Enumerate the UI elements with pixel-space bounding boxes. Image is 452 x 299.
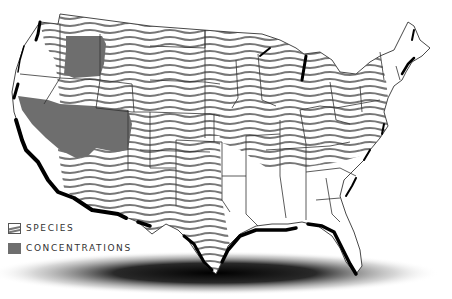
legend-item-concentrations: CONCENTRATIONS bbox=[8, 240, 132, 256]
legend-label-concentrations: CONCENTRATIONS bbox=[26, 243, 132, 253]
wavy-hatch-swatch-icon bbox=[8, 223, 21, 234]
solid-gray-swatch-icon bbox=[8, 243, 21, 254]
legend-label-species: SPECIES bbox=[26, 223, 74, 233]
legend-item-species: SPECIES bbox=[8, 220, 132, 236]
map-legend: SPECIES CONCENTRATIONS bbox=[8, 220, 132, 260]
